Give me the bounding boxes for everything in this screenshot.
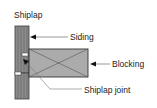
blocking-label: Blocking xyxy=(112,60,144,69)
blocking-block xyxy=(29,49,88,77)
siding-leader xyxy=(30,35,68,40)
diagram-title: Shiplap xyxy=(14,11,42,20)
siding-label: Siding xyxy=(70,33,94,42)
blocking-leader xyxy=(90,62,110,67)
shiplap-joint-label: Shiplap joint xyxy=(84,86,130,95)
